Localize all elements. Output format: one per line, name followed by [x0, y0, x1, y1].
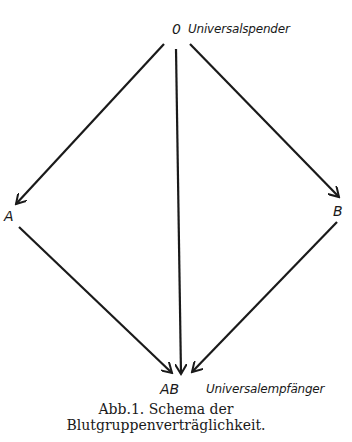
edge-0-to-b	[190, 44, 339, 197]
node-a-label: A	[4, 208, 14, 224]
node-0-description: Universalspender	[188, 22, 290, 36]
edge-0-to-a	[16, 44, 164, 204]
node-b-label: B	[333, 203, 343, 219]
diagram-arrows	[0, 0, 352, 442]
edge-b-to-ab	[192, 222, 337, 372]
node-ab-label: AB	[160, 381, 179, 397]
node-0-label: 0	[172, 21, 181, 37]
node-ab-description: Universalempfänger	[206, 382, 324, 396]
figure-caption-line2: Blutgruppenverträglichkeit.	[0, 418, 342, 433]
edge-0-to-ab	[176, 49, 181, 374]
figure-caption-line1: Abb.1. Schema der	[0, 402, 342, 417]
edge-a-to-ab	[19, 227, 172, 373]
